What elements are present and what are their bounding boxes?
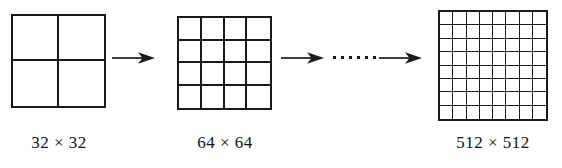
grid-cell: [453, 52, 466, 65]
grid-cell: [59, 16, 105, 61]
grid-cell: [440, 25, 453, 38]
grid-cell: [13, 16, 59, 61]
grid-cell: [225, 18, 248, 41]
grid-cell: [533, 52, 546, 65]
grid-cell: [440, 66, 453, 79]
grid-cell: [480, 66, 493, 79]
grid-cell: [453, 39, 466, 52]
grid-cell: [480, 39, 493, 52]
grid-cell: [440, 39, 453, 52]
progressive-growth-diagram: 32 × 32 64 × 64 512 × 512: [0, 0, 562, 168]
arrow-right-icon-1: [112, 51, 156, 65]
grid-cell: [533, 79, 546, 92]
grid-cell: [467, 92, 480, 105]
caption-512x512: 512 × 512: [428, 133, 558, 153]
ellipsis-dot: [333, 56, 336, 59]
grid-cell: [506, 66, 519, 79]
grid-cell: [493, 92, 506, 105]
grid-cell: [179, 18, 202, 41]
grid-cell: [467, 25, 480, 38]
grid-cell: [247, 86, 270, 109]
grid-cell: [202, 86, 225, 109]
grid-cell: [202, 18, 225, 41]
ellipsis-dot: [357, 56, 360, 59]
grid-cell: [467, 39, 480, 52]
grid-cell: [202, 63, 225, 86]
grid-cell: [467, 52, 480, 65]
grid-cell: [520, 25, 533, 38]
ellipsis-dot: [341, 56, 344, 59]
grid-cell: [247, 41, 270, 64]
caption-32x32: 32 × 32: [0, 133, 118, 153]
grid-cell: [247, 18, 270, 41]
grid-cell: [533, 25, 546, 38]
grid-cell: [493, 52, 506, 65]
grid-cell: [480, 79, 493, 92]
grid-cell: [493, 106, 506, 119]
grid-cell: [453, 79, 466, 92]
grid-cell: [480, 25, 493, 38]
grid-cell: [59, 61, 105, 106]
grid-cell: [506, 39, 519, 52]
grid-cell: [506, 25, 519, 38]
grid-cell: [467, 79, 480, 92]
grid-cell: [453, 25, 466, 38]
grid-cell: [533, 12, 546, 25]
grid-512x512: [438, 10, 548, 121]
grid-cell: [520, 39, 533, 52]
grid-cell: [533, 106, 546, 119]
grid-cell: [453, 12, 466, 25]
grid-cell: [440, 12, 453, 25]
grid-cell: [520, 79, 533, 92]
grid-cell: [533, 39, 546, 52]
caption-64x64: 64 × 64: [168, 133, 282, 153]
grid-cell: [453, 92, 466, 105]
ellipsis-dot: [373, 56, 376, 59]
grid-cell: [520, 52, 533, 65]
grid-cell: [467, 12, 480, 25]
grid-cell: [440, 92, 453, 105]
grid-cell: [506, 52, 519, 65]
grid-cell: [225, 86, 248, 109]
grid-cell: [480, 92, 493, 105]
arrow-right-icon-2: [281, 51, 325, 65]
grid-cell: [467, 106, 480, 119]
grid-cell: [493, 25, 506, 38]
grid-32x32: [11, 14, 106, 108]
grid-cell: [453, 66, 466, 79]
grid-cell: [533, 66, 546, 79]
grid-cell: [453, 106, 466, 119]
grid-cell: [533, 92, 546, 105]
grid-cell: [179, 41, 202, 64]
grid-cell: [506, 92, 519, 105]
grid-cell: [480, 106, 493, 119]
grid-cell: [493, 79, 506, 92]
grid-cell: [179, 86, 202, 109]
grid-cell: [493, 66, 506, 79]
grid-64x64: [177, 16, 272, 110]
grid-cell: [202, 41, 225, 64]
grid-cell: [493, 39, 506, 52]
grid-cell: [440, 52, 453, 65]
grid-cell: [506, 12, 519, 25]
grid-cell: [520, 12, 533, 25]
grid-cell: [493, 12, 506, 25]
grid-cell: [520, 66, 533, 79]
grid-cell: [467, 66, 480, 79]
grid-cell: [247, 63, 270, 86]
grid-cell: [520, 92, 533, 105]
grid-cell: [179, 63, 202, 86]
grid-cell: [520, 106, 533, 119]
grid-cell: [506, 106, 519, 119]
ellipsis-dot: [349, 56, 352, 59]
ellipsis-dot: [365, 56, 368, 59]
grid-cell: [13, 61, 59, 106]
grid-cell: [440, 79, 453, 92]
arrow-right-icon-3: [379, 51, 423, 65]
grid-cell: [480, 52, 493, 65]
grid-cell: [225, 63, 248, 86]
grid-cell: [480, 12, 493, 25]
grid-cell: [440, 106, 453, 119]
ellipsis-icon: [333, 56, 376, 59]
grid-cell: [506, 79, 519, 92]
